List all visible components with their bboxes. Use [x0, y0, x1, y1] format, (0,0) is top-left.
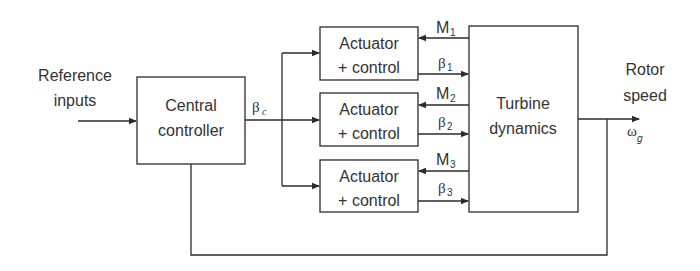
pitch-1-label: β 1	[438, 55, 453, 73]
pitch-2-symbol: β	[438, 114, 446, 130]
actuator-3-line1: Actuator	[339, 168, 399, 185]
turbine-dynamics-box	[469, 26, 578, 212]
pitch-3-symbol: β	[438, 180, 446, 196]
moment-2-label: M 2	[436, 85, 456, 104]
pitch-3-subscript: 3	[447, 187, 453, 198]
pitch-3-label: β 3	[438, 180, 453, 198]
pitch-1-symbol: β	[438, 55, 446, 71]
moment-1-label: M 1	[436, 19, 456, 38]
pitch-2-subscript: 2	[447, 121, 453, 132]
omega-g-subscript: g	[637, 133, 643, 144]
actuator-2-block: Actuator + control	[320, 93, 418, 146]
pitch-2-label: β 2	[438, 114, 453, 132]
omega-g-label: ω g	[627, 123, 643, 144]
reference-inputs-label: Reference inputs	[38, 67, 112, 109]
rotor-speed-line1: Rotor	[625, 61, 665, 78]
rotor-speed-line2: speed	[623, 87, 667, 104]
moment-3-subscript: 3	[450, 159, 456, 170]
beta-c-symbol: β	[252, 99, 260, 115]
reference-inputs-line2: inputs	[54, 92, 97, 109]
actuator-1-line2: + control	[338, 59, 400, 76]
turbine-dynamics-line1: Turbine	[496, 95, 550, 112]
moment-2-subscript: 2	[450, 93, 456, 104]
actuator-1-line1: Actuator	[339, 35, 399, 52]
moment-3-label: M 3	[436, 151, 456, 170]
actuator-3-block: Actuator + control	[320, 160, 418, 212]
actuator-2-line1: Actuator	[339, 101, 399, 118]
central-controller-line2: controller	[158, 122, 224, 139]
beta-c-subscript: c	[262, 106, 267, 117]
reference-inputs-line1: Reference	[38, 67, 112, 84]
actuator-1-block: Actuator + control	[320, 27, 418, 80]
rotor-speed-label: Rotor speed	[623, 61, 667, 104]
central-controller-line1: Central	[165, 97, 217, 114]
moment-1-subscript: 1	[450, 27, 456, 38]
control-block-diagram: Reference inputs Central controller β c …	[0, 0, 700, 271]
moment-1-symbol: M	[436, 19, 449, 36]
central-controller-box	[137, 77, 245, 164]
actuator-2-line2: + control	[338, 125, 400, 142]
turbine-dynamics-line2: dynamics	[489, 120, 557, 137]
pitch-1-subscript: 1	[447, 62, 453, 73]
moment-2-symbol: M	[436, 85, 449, 102]
central-controller-block: Central controller	[137, 77, 245, 164]
turbine-dynamics-block: Turbine dynamics	[469, 26, 578, 212]
moment-3-symbol: M	[436, 151, 449, 168]
omega-g-symbol: ω	[627, 123, 637, 139]
beta-c-label: β c	[252, 99, 267, 117]
actuator-3-line2: + control	[338, 192, 400, 209]
